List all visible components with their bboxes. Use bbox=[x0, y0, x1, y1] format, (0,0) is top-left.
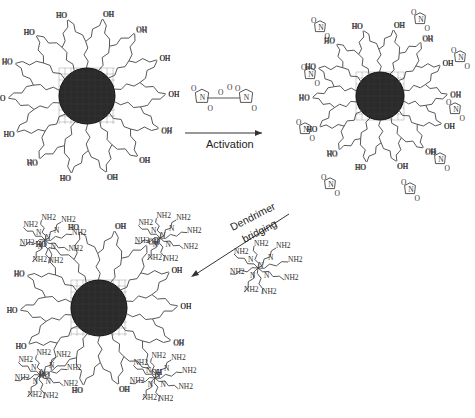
terminal-group-label: OH bbox=[119, 385, 130, 394]
svg-text:N: N bbox=[248, 255, 254, 264]
svg-text:N: N bbox=[244, 93, 250, 102]
svg-text:NH2: NH2 bbox=[234, 247, 249, 256]
terminal-group-label: OH bbox=[161, 127, 172, 136]
terminal-group-label: HO bbox=[24, 28, 35, 37]
svg-text:O: O bbox=[252, 104, 258, 113]
terminal-group-label: OH bbox=[160, 54, 171, 63]
terminal-group-label: OH bbox=[397, 162, 408, 171]
free-dendrimer: NNNNNNH2NH2NH2NH2NH2NH2NH2NH2 bbox=[230, 239, 303, 296]
svg-text:O: O bbox=[227, 83, 233, 92]
svg-text:NH2: NH2 bbox=[15, 373, 30, 382]
svg-text:N: N bbox=[264, 271, 270, 280]
svg-text:O: O bbox=[321, 173, 327, 182]
svg-text:NH2: NH2 bbox=[130, 376, 145, 385]
svg-text:O: O bbox=[310, 134, 316, 143]
svg-text:NH2: NH2 bbox=[182, 366, 197, 375]
terminal-group-label: HO bbox=[355, 163, 366, 172]
svg-text:NH2: NH2 bbox=[56, 350, 71, 359]
svg-text:NH2: NH2 bbox=[159, 394, 174, 403]
svg-text:NH2: NH2 bbox=[49, 256, 64, 265]
svg-text:NH2: NH2 bbox=[183, 242, 198, 251]
svg-text:O: O bbox=[325, 32, 331, 41]
terminal-group-label: HO bbox=[2, 57, 13, 66]
svg-text:NH2: NH2 bbox=[138, 218, 153, 227]
svg-text:N: N bbox=[200, 93, 206, 102]
svg-text:NH2: NH2 bbox=[254, 239, 269, 248]
terminal-group-label: HO bbox=[27, 158, 38, 167]
terminal-group-label: OH bbox=[139, 156, 150, 165]
svg-text:O: O bbox=[451, 46, 457, 55]
svg-text:O: O bbox=[315, 79, 321, 88]
svg-text:O: O bbox=[311, 16, 317, 25]
reagent-ring-right: ONO bbox=[235, 84, 258, 113]
svg-text:O: O bbox=[301, 63, 307, 72]
terminal-group-label: HO bbox=[15, 342, 26, 351]
terminal-group-label: HO bbox=[299, 93, 310, 102]
svg-text:O: O bbox=[415, 194, 421, 203]
svg-text:NH2: NH2 bbox=[230, 267, 245, 276]
terminal-group-label: OH bbox=[394, 21, 405, 30]
svg-text:NH2: NH2 bbox=[133, 358, 148, 367]
svg-text:O: O bbox=[425, 24, 431, 33]
svg-text:N: N bbox=[318, 23, 324, 32]
svg-text:NH2: NH2 bbox=[164, 254, 179, 263]
svg-text:O: O bbox=[460, 114, 466, 123]
terminal-group-label: OH bbox=[443, 59, 454, 68]
terminal-group-label: HO bbox=[56, 11, 67, 20]
terminal-group-label: OH bbox=[423, 35, 434, 44]
svg-text:NH2: NH2 bbox=[284, 273, 299, 282]
svg-text:O: O bbox=[235, 84, 241, 93]
activation-arrow bbox=[185, 130, 262, 136]
svg-text:NH2: NH2 bbox=[72, 228, 87, 237]
svg-text:NH2: NH2 bbox=[135, 236, 150, 245]
svg-text:N: N bbox=[453, 105, 459, 114]
activated-nanoparticle: OHOHOHOHOHOHOHHOHOHOHOHOHOHOHOHOHOHOHOHO… bbox=[299, 21, 462, 172]
terminal-group-label: HO bbox=[326, 149, 337, 158]
terminal-group-label: OH bbox=[116, 222, 127, 231]
terminal-group-label: HO bbox=[14, 269, 25, 278]
svg-text:N: N bbox=[418, 15, 424, 24]
terminal-group-label: OH bbox=[104, 10, 115, 19]
terminal-group-label: OH bbox=[173, 339, 184, 348]
svg-text:NH2: NH2 bbox=[44, 391, 59, 400]
svg-text:NH2: NH2 bbox=[27, 390, 42, 399]
svg-text:NH2: NH2 bbox=[67, 363, 82, 372]
succinimide-ring: ONO bbox=[321, 173, 341, 198]
svg-text:O: O bbox=[446, 98, 452, 107]
svg-text:NH2: NH2 bbox=[36, 348, 51, 357]
svg-text:O: O bbox=[401, 178, 407, 187]
svg-text:NH2: NH2 bbox=[276, 241, 291, 250]
terminal-group-label: OH bbox=[450, 90, 461, 99]
terminal-group-label: OH bbox=[137, 26, 148, 35]
succinimide-ring: ONO bbox=[431, 148, 451, 173]
svg-text:O: O bbox=[445, 164, 451, 173]
svg-text:NH2: NH2 bbox=[244, 285, 259, 294]
reaction-scheme: OHOHOHOHOHOHOHHOHOHOHOHOHOHOHOHOHOHOHOHO… bbox=[0, 0, 475, 418]
terminal-group-label: HO bbox=[352, 22, 363, 31]
svg-text:O: O bbox=[191, 84, 197, 93]
terminal-group-label: HO bbox=[60, 174, 71, 183]
reagent-ring-left: ONO bbox=[191, 84, 214, 113]
terminal-group-label: HO bbox=[3, 130, 14, 139]
succinimide-ring: ONO bbox=[311, 16, 331, 41]
svg-text:O: O bbox=[465, 62, 471, 71]
svg-text:NH2: NH2 bbox=[41, 213, 56, 222]
svg-text:NH2: NH2 bbox=[32, 255, 47, 264]
terminal-group-label: OH bbox=[444, 122, 455, 131]
svg-text:N: N bbox=[328, 180, 334, 189]
svg-text:NH2: NH2 bbox=[156, 211, 171, 220]
svg-text:O: O bbox=[218, 88, 224, 97]
hydroxyl-nanoparticle: OHOHOHOHOHOHOHHOHOHOHOHOHOHOHOHOHOHOHOHO… bbox=[0, 10, 180, 183]
svg-text:NH2: NH2 bbox=[151, 351, 166, 360]
svg-text:N: N bbox=[438, 155, 444, 164]
svg-text:N: N bbox=[458, 53, 464, 62]
svg-text:NH2: NH2 bbox=[20, 238, 35, 247]
succinimide-ring: ONO bbox=[451, 46, 471, 71]
terminal-group-label: OH bbox=[107, 173, 118, 182]
svg-text:NH2: NH2 bbox=[68, 244, 83, 253]
terminal-group-label: OH bbox=[169, 90, 180, 99]
svg-text:NH2: NH2 bbox=[61, 215, 76, 224]
succinimide-ring: ONO bbox=[411, 8, 431, 33]
terminal-group-label: HO bbox=[7, 306, 18, 315]
bridged-dendrimer-bottom-right: NNNNNNH2NH2NH2NH2NH2NH2NH2NH2 bbox=[130, 351, 197, 403]
